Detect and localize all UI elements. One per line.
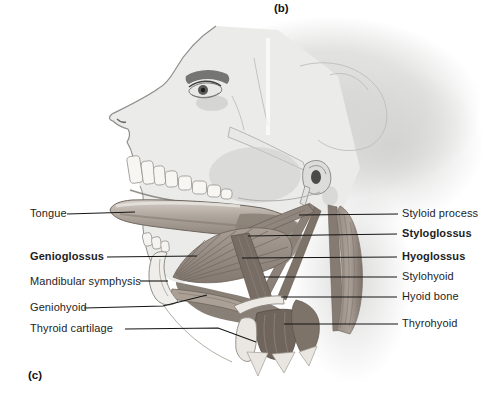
label-thyroid-cartilage: Thyroid cartilage	[30, 322, 113, 335]
label-tongue: Tongue	[30, 207, 67, 220]
label-styloid-process: Styloid process	[402, 207, 478, 220]
label-thyrohyoid: Thyrohyoid	[402, 317, 457, 330]
label-hyoglossus: Hyoglossus	[402, 250, 465, 263]
label-styloglossus: Styloglossus	[402, 227, 472, 240]
figure-panel: (b) (c) Tongue Genioglossus Mandibular s…	[0, 0, 491, 396]
label-hyoid-bone: Hyoid bone	[402, 290, 459, 303]
panel-label-c: (c)	[28, 369, 42, 381]
anatomy-illustration	[0, 0, 491, 396]
label-geniohyoid: Geniohyoid	[30, 301, 87, 314]
label-mandibular-symphysis: Mandibular symphysis	[30, 275, 141, 288]
panel-label-b: (b)	[274, 2, 289, 14]
label-stylohyoid: Stylohyoid	[402, 270, 454, 283]
label-genioglossus: Genioglossus	[30, 250, 104, 263]
